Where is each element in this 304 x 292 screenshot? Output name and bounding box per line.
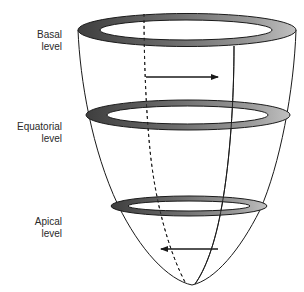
basal-label-line2: level: [37, 41, 62, 53]
equatorial-level-label: Equatorial level: [17, 121, 62, 145]
apical-label-line2: level: [35, 228, 62, 240]
basal-level-label: Basal level: [37, 29, 62, 53]
apical-label-line1: Apical: [35, 216, 62, 228]
anterior-meridian-overlay: [195, 46, 234, 284]
posterior-meridian-dashed: [144, 14, 186, 284]
ventricle-outline: [78, 30, 296, 285]
apical-level-label: Apical level: [35, 216, 62, 240]
posterior-meridian-dashed-overlay: [144, 14, 186, 284]
equatorial-label-line2: level: [17, 133, 62, 145]
basal-label-line1: Basal: [37, 29, 62, 41]
basal-ring: [78, 13, 296, 46]
equatorial-ring: [86, 100, 290, 130]
apical-ring: [111, 196, 267, 216]
equatorial-label-line1: Equatorial: [17, 121, 62, 133]
